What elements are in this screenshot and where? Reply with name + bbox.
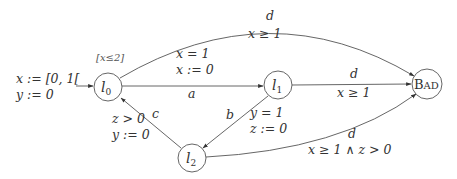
edge-l2-bad-guard: x ≥ 1 ∧ z > 0 bbox=[308, 142, 392, 157]
edge-l0-bad-guard: x ≥ 1 bbox=[248, 26, 281, 41]
edge-l0-bad-action: d bbox=[266, 8, 274, 23]
edge-l2-bad-action: d bbox=[348, 126, 356, 141]
edge-l2-l0-action: c bbox=[152, 106, 159, 121]
state-l0-invariant: [x≤2] bbox=[96, 52, 124, 63]
edge-l2-l0-guard: z > 0 bbox=[111, 111, 145, 126]
initial-assignment: x := [0, 1[ y := 0 bbox=[15, 71, 79, 102]
edge-l1-l2-reset: z := 0 bbox=[249, 121, 287, 136]
edge-l1-l2-guard: y = 1 bbox=[249, 105, 283, 120]
state-l1: l1 bbox=[264, 71, 292, 99]
edge-l2-l0-reset: y := 0 bbox=[111, 127, 150, 142]
edge-l1-bad-guard: x ≥ 1 bbox=[337, 85, 370, 100]
edge-l0-l1-action: a bbox=[188, 86, 195, 101]
state-l2: l2 bbox=[178, 144, 206, 172]
edge-l1-bad-action: d bbox=[350, 66, 358, 81]
initial-line-1: x := [0, 1[ bbox=[16, 71, 79, 86]
state-bad-label: BAD bbox=[414, 77, 439, 92]
initial-line-2: y := 0 bbox=[15, 87, 54, 102]
state-bad: BAD bbox=[412, 69, 442, 99]
edge-l1-l2-action: b bbox=[226, 107, 234, 122]
edge-l0-l1-reset: x := 0 bbox=[176, 62, 214, 77]
edge-l0-l1-guard: x = 1 bbox=[176, 46, 209, 61]
timed-automaton-diagram: x := [0, 1[ y := 0 d x ≥ 1 x = 1 x := 0 … bbox=[0, 0, 457, 179]
state-l0: l0 [x≤2] bbox=[94, 52, 124, 101]
